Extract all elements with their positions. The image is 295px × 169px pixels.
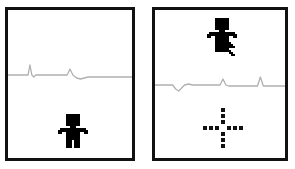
ecg-waveform-right xyxy=(155,70,285,94)
left-frame-canvas xyxy=(8,10,132,158)
pixel-character-left xyxy=(58,114,88,148)
dashed-crosshair-icon[interactable] xyxy=(203,108,243,148)
scene-root xyxy=(0,0,295,169)
ecg-waveform-left xyxy=(8,60,132,84)
mouse-cursor-icon[interactable] xyxy=(221,34,239,58)
right-frame-canvas xyxy=(155,10,285,158)
left-frame xyxy=(5,7,135,161)
right-frame xyxy=(152,7,288,161)
